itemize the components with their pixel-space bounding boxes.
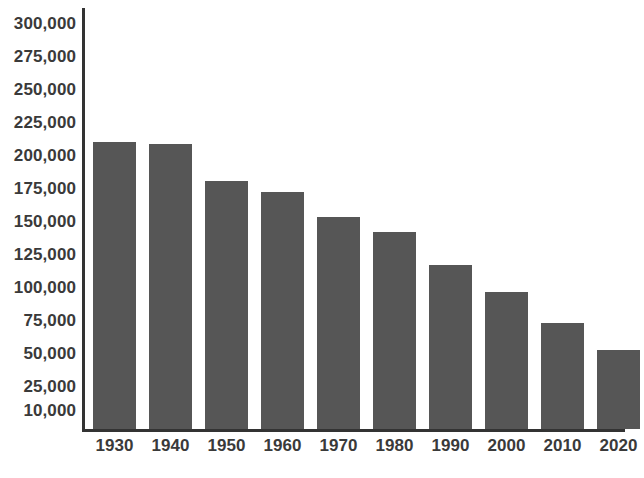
y-axis-tick-label: 175,000 [0,180,76,197]
y-axis-tick-label: 200,000 [0,147,76,164]
bar [485,292,528,429]
y-axis-tick-label: 75,000 [0,312,76,329]
bar-slot [429,8,472,429]
bar [261,192,304,429]
y-axis-tick-label: 150,000 [0,213,76,230]
x-axis-tick-label: 2020 [591,436,644,456]
y-axis-tick-label: 25,000 [0,378,76,395]
bar [93,142,136,429]
bar-slot [261,8,304,429]
bar [205,181,248,429]
x-axis-tick-label: 1940 [143,436,199,456]
x-axis-tick-label: 1950 [199,436,255,456]
bar [373,232,416,429]
bar-slot [205,8,248,429]
x-axis-tick-label: 2000 [479,436,535,456]
bar-slot [373,8,416,429]
bar-slot [485,8,528,429]
y-axis-tick-label: 250,000 [0,81,76,98]
bar-slot [317,8,360,429]
bar-slot [93,8,136,429]
bar [429,265,472,429]
x-axis-tick-label: 1960 [255,436,311,456]
bar [149,144,192,429]
y-axis-tick-label: 50,000 [0,345,76,362]
y-axis-tick-label: 125,000 [0,246,76,263]
x-axis-tick-label: 1980 [367,436,423,456]
y-axis-tick-label: 10,000 [0,402,76,419]
x-axis-line [82,429,625,432]
plot-area [85,8,625,429]
bar-slot [597,8,640,429]
bar [317,217,360,429]
x-axis-labels: 1930194019501960197019801990200020102020 [85,436,625,462]
y-axis-tick-label: 275,000 [0,48,76,65]
x-axis-tick-label: 1930 [87,436,143,456]
x-axis-tick-label: 1990 [423,436,479,456]
x-axis-tick-label: 1970 [311,436,367,456]
bar-slot [541,8,584,429]
y-axis-tick-label: 100,000 [0,279,76,296]
bar [597,350,640,429]
y-axis-tick-label: 300,000 [0,15,76,32]
y-axis-tick-label: 225,000 [0,114,76,131]
x-axis-tick-label: 2010 [535,436,591,456]
bar-slot [149,8,192,429]
y-axis-labels: 300,000275,000250,000225,000200,000175,0… [0,0,76,478]
bar [541,323,584,429]
